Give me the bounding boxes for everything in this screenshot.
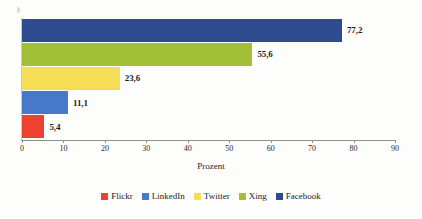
x-tick-label: 80 bbox=[350, 144, 358, 153]
legend-label: Flickr bbox=[111, 191, 133, 201]
x-tick-mark bbox=[146, 140, 147, 143]
x-tick-mark bbox=[395, 140, 396, 143]
legend-item-flickr[interactable]: Flickr bbox=[101, 191, 133, 201]
legend-label: Twitter bbox=[204, 191, 230, 201]
bar-value-label: 77,2 bbox=[347, 25, 362, 35]
x-tick-label: 90 bbox=[391, 144, 399, 153]
x-tick-mark bbox=[188, 140, 189, 143]
bar-facebook[interactable] bbox=[22, 19, 342, 42]
x-tick-mark bbox=[312, 140, 313, 143]
x-tick-mark bbox=[105, 140, 106, 143]
bar-xing[interactable] bbox=[22, 43, 252, 66]
legend-item-facebook[interactable]: Facebook bbox=[276, 191, 321, 201]
legend-item-xing[interactable]: Xing bbox=[239, 191, 267, 201]
x-tick-label: 60 bbox=[267, 144, 275, 153]
bar-row: 55,6 bbox=[22, 42, 273, 66]
x-tick-mark bbox=[229, 140, 230, 143]
legend-swatch-icon bbox=[142, 193, 149, 200]
bar-value-label: 11,1 bbox=[73, 98, 88, 108]
legend-swatch-icon bbox=[101, 193, 108, 200]
x-tick-label: 50 bbox=[225, 144, 233, 153]
legend-swatch-icon bbox=[276, 193, 283, 200]
legend-label: LinkedIn bbox=[152, 191, 185, 201]
bar-value-label: 5,4 bbox=[49, 122, 60, 132]
x-tick-label: 20 bbox=[101, 144, 109, 153]
bar-row: 5,4 bbox=[22, 115, 60, 139]
bar-chart: 77,255,623,611,15,4 0102030405060708090 … bbox=[0, 0, 422, 219]
bar-twitter[interactable] bbox=[22, 67, 120, 90]
x-tick-label: 70 bbox=[308, 144, 316, 153]
x-tick-label: 40 bbox=[184, 144, 192, 153]
legend-label: Facebook bbox=[286, 191, 321, 201]
x-axis-line bbox=[21, 140, 396, 141]
y-axis-line bbox=[21, 18, 22, 140]
x-axis-title: Prozent bbox=[0, 161, 422, 171]
plot-area: 77,255,623,611,15,4 bbox=[22, 18, 395, 140]
legend-swatch-icon bbox=[239, 193, 246, 200]
legend-label: Xing bbox=[249, 191, 267, 201]
legend-item-linkedin[interactable]: LinkedIn bbox=[142, 191, 185, 201]
x-tick-mark bbox=[271, 140, 272, 143]
bar-flickr[interactable] bbox=[22, 115, 44, 138]
bar-linkedin[interactable] bbox=[22, 91, 68, 114]
x-tick-label: 0 bbox=[20, 144, 24, 153]
x-tick-label: 10 bbox=[59, 144, 67, 153]
legend-swatch-icon bbox=[194, 193, 201, 200]
legend-item-twitter[interactable]: Twitter bbox=[194, 191, 230, 201]
bar-row: 77,2 bbox=[22, 18, 362, 42]
x-tick-mark bbox=[63, 140, 64, 143]
bar-value-label: 23,6 bbox=[125, 73, 140, 83]
x-tick-mark bbox=[354, 140, 355, 143]
scan-artifact bbox=[17, 7, 20, 13]
bar-row: 11,1 bbox=[22, 91, 88, 115]
bar-value-label: 55,6 bbox=[257, 49, 272, 59]
x-tick-label: 30 bbox=[142, 144, 150, 153]
bar-row: 23,6 bbox=[22, 66, 140, 90]
chart-legend: FlickrLinkedInTwitterXingFacebook bbox=[0, 191, 422, 201]
x-tick-mark bbox=[22, 140, 23, 143]
